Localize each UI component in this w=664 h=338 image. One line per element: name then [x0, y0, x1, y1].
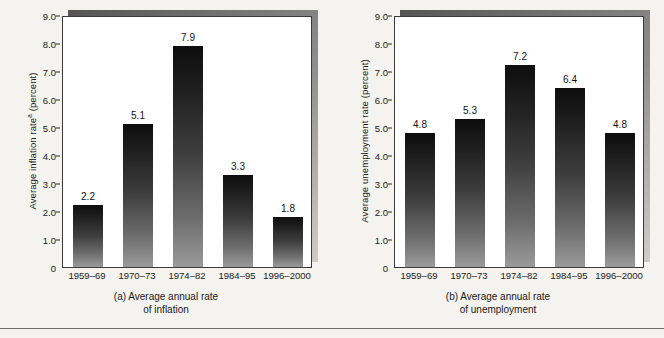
bar-a-1 [123, 124, 153, 267]
bar-b-4 [605, 133, 635, 267]
y-tick-label-a-8: 8.0 [43, 40, 56, 49]
bar-value-label-a-0: 2.2 [68, 192, 108, 202]
figure-two-panel-bar-charts: Average inflation ratea (percent) 01.02.… [0, 0, 664, 338]
y-tick-mark-b-7 [388, 72, 392, 73]
bar-a-4 [273, 217, 303, 267]
y-tick-label-a-4: 4.0 [43, 152, 56, 161]
y-tick-label-a-2: 2.0 [43, 208, 56, 217]
y-tick-label-a-9: 9.0 [43, 12, 56, 21]
bar-value-label-a-3: 3.3 [218, 162, 258, 172]
x-category-label-b-0: 1959–69 [401, 270, 438, 281]
panel-caption-b: (b) Average annual rate of unemployment [332, 290, 664, 316]
panel-b-unemployment: Average unemployment rate (percent) 01.0… [332, 0, 664, 338]
bar-a-0 [73, 205, 103, 267]
y-tick-label-b-6: 6.0 [375, 96, 388, 105]
bar-value-label-a-2: 7.9 [168, 33, 208, 43]
y-tick-label-b-3: 3.0 [375, 180, 388, 189]
plot-frame-a: 2.25.17.93.31.8 [62, 16, 312, 268]
x-category-label-a-1: 1970–73 [119, 270, 156, 281]
bar-b-0 [405, 133, 435, 267]
figure-bottom-rule [0, 328, 664, 329]
y-tick-label-b-8: 8.0 [375, 40, 388, 49]
y-tick-mark-a-5 [56, 128, 60, 129]
x-axis-categories-a: 1959–691970–731974–821984–951996–2000 [62, 270, 312, 284]
x-axis-categories-b: 1959–691970–731974–821984–951996–2000 [394, 270, 644, 284]
y-tick-mark-a-8 [56, 44, 60, 45]
bar-value-label-b-1: 5.3 [450, 106, 490, 116]
plot-area-b: 4.85.37.26.44.8 [395, 17, 643, 267]
y-tick-mark-a-6 [56, 100, 60, 101]
y-tick-mark-a-1 [56, 240, 60, 241]
y-tick-mark-b-8 [388, 44, 392, 45]
y-tick-label-b-0: 0 [383, 264, 388, 273]
bar-b-1 [455, 119, 485, 267]
y-tick-mark-a-9 [56, 16, 60, 17]
x-category-label-b-2: 1974–82 [501, 270, 538, 281]
y-axis-ticks-a: 01.02.03.04.05.06.07.08.09.0 [30, 10, 60, 262]
x-category-label-a-3: 1984–95 [219, 270, 256, 281]
plot-area-a: 2.25.17.93.31.8 [63, 17, 311, 267]
x-category-label-a-2: 1974–82 [169, 270, 206, 281]
bar-a-2 [173, 46, 203, 267]
y-tick-label-a-7: 7.0 [43, 68, 56, 77]
panel-caption-b-line1: (b) Average annual rate [332, 290, 664, 303]
bar-value-label-b-4: 4.8 [600, 120, 640, 130]
y-tick-label-b-1: 1.0 [375, 236, 388, 245]
panel-caption-a-line1: (a) Average annual rate [0, 290, 332, 303]
panel-a-inflation: Average inflation ratea (percent) 01.02.… [0, 0, 332, 338]
bar-value-label-b-3: 6.4 [550, 75, 590, 85]
x-category-label-b-1: 1970–73 [451, 270, 488, 281]
y-tick-mark-b-5 [388, 128, 392, 129]
y-axis-ticks-b: 01.02.03.04.05.06.07.08.09.0 [362, 10, 392, 262]
bar-b-3 [555, 88, 585, 267]
y-tick-label-a-1: 1.0 [43, 236, 56, 245]
y-tick-mark-b-9 [388, 16, 392, 17]
y-tick-label-a-0: 0 [51, 264, 56, 273]
panel-caption-a-line2: of inflation [0, 303, 332, 316]
bar-a-3 [223, 175, 253, 267]
bar-value-label-a-1: 5.1 [118, 111, 158, 121]
y-tick-label-a-3: 3.0 [43, 180, 56, 189]
y-tick-mark-a-3 [56, 184, 60, 185]
x-category-label-b-4: 1996–2000 [595, 270, 643, 281]
x-category-label-b-3: 1984–95 [551, 270, 588, 281]
y-tick-label-b-5: 5.0 [375, 124, 388, 133]
panel-caption-a: (a) Average annual rate of inflation [0, 290, 332, 316]
y-tick-label-a-5: 5.0 [43, 124, 56, 133]
x-category-label-a-4: 1996–2000 [263, 270, 311, 281]
panel-caption-b-line2: of unemployment [332, 303, 664, 316]
y-tick-mark-b-6 [388, 100, 392, 101]
y-tick-label-a-6: 6.0 [43, 96, 56, 105]
y-tick-label-b-2: 2.0 [375, 208, 388, 217]
y-tick-mark-b-3 [388, 184, 392, 185]
bar-b-2 [505, 65, 535, 267]
x-category-label-a-0: 1959–69 [69, 270, 106, 281]
y-tick-mark-b-1 [388, 240, 392, 241]
y-tick-mark-a-4 [56, 156, 60, 157]
bar-value-label-b-0: 4.8 [400, 120, 440, 130]
y-tick-label-b-4: 4.0 [375, 152, 388, 161]
y-tick-mark-b-2 [388, 212, 392, 213]
bar-value-label-b-2: 7.2 [500, 52, 540, 62]
y-tick-mark-a-2 [56, 212, 60, 213]
bar-value-label-a-4: 1.8 [268, 204, 308, 214]
y-tick-label-b-7: 7.0 [375, 68, 388, 77]
plot-frame-b: 4.85.37.26.44.8 [394, 16, 644, 268]
y-tick-label-b-9: 9.0 [375, 12, 388, 21]
y-tick-mark-b-4 [388, 156, 392, 157]
y-tick-mark-a-7 [56, 72, 60, 73]
